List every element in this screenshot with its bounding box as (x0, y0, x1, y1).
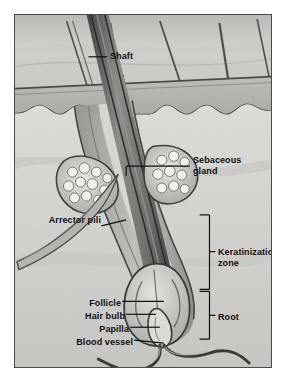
blood-vessel-leader (134, 340, 164, 343)
label-arrector-pili: Arrector pili (23, 215, 101, 226)
label-keratinization-zone-line1: Keratinization (218, 247, 272, 258)
label-follicle: Follicle (43, 298, 121, 309)
label-root: Root (218, 312, 239, 323)
arrector-leader (101, 220, 126, 226)
root-bracket (200, 291, 210, 339)
label-sebaceous-gland-line1: Sebaceous (193, 155, 241, 166)
illustration-frame: Shaft Sebaceous gland Arrector pili Kera… (14, 14, 272, 368)
label-shaft: Shaft (110, 51, 133, 62)
hair-follicle-figure: Shaft Sebaceous gland Arrector pili Kera… (0, 0, 287, 385)
label-hair-bulb: Hair bulb (43, 311, 125, 322)
label-blood-vessel: Blood vessel (29, 337, 133, 348)
label-papilla: Papilla (43, 324, 129, 335)
label-sebaceous-gland-line2: gland (193, 166, 218, 177)
keratinization-bracket (200, 215, 210, 290)
label-keratinization-zone-line2: zone (218, 258, 239, 269)
